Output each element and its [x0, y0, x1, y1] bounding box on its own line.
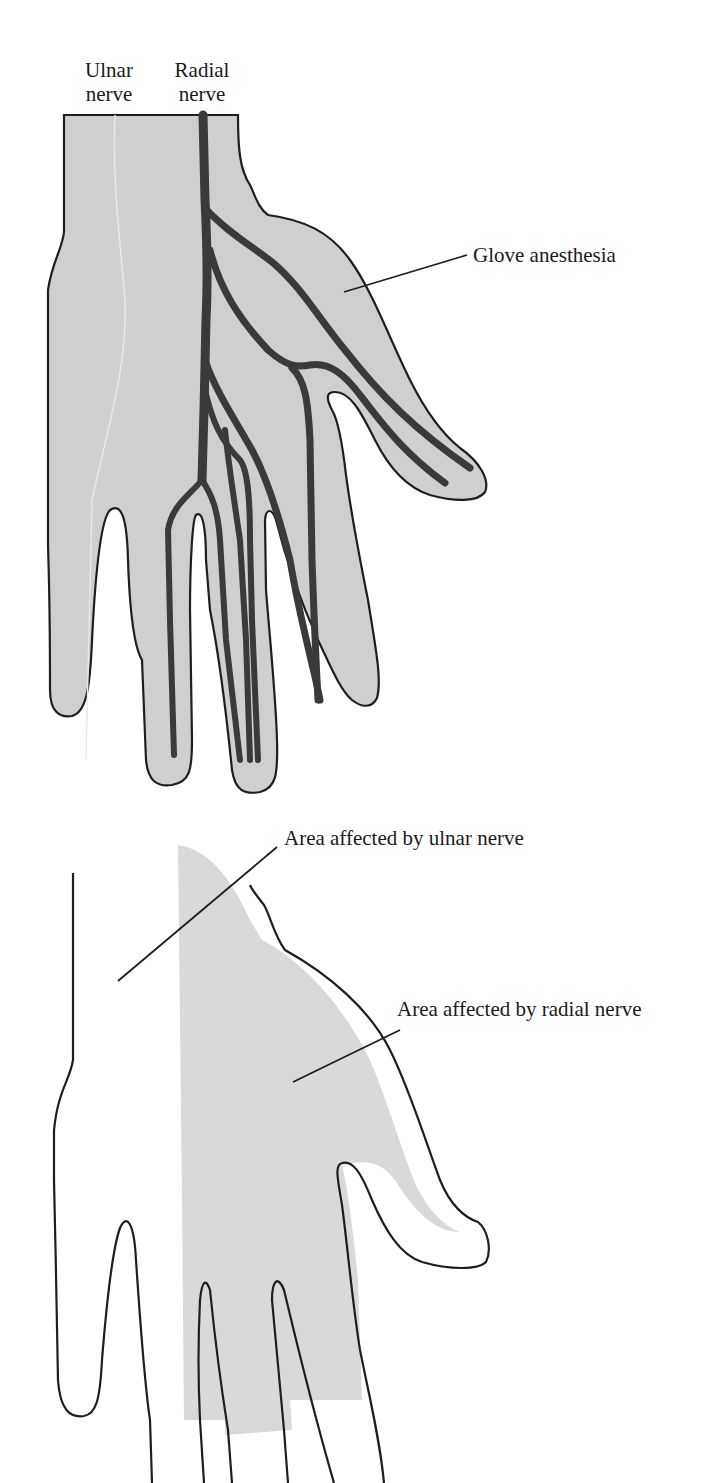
ulnar-area-label: Area affected by ulnar nerve	[284, 826, 524, 850]
ulnar-nerve-label: Ulnar nerve	[78, 58, 140, 106]
nerve-anesthesia-figure: Ulnar nerve Radial nerve Glove anesthesi…	[0, 0, 705, 1483]
radial-area-label: Area affected by radial nerve	[397, 997, 641, 1021]
radial-nerve-label-line1: Radial	[168, 58, 236, 82]
radial-area-fill	[178, 845, 460, 1435]
glove-anesthesia-label: Glove anesthesia	[473, 243, 616, 267]
radial-nerve-label: Radial nerve	[168, 58, 236, 106]
ulnar-nerve-label-line2: nerve	[78, 82, 140, 106]
glove-leader-line	[344, 255, 467, 292]
top-hand	[48, 115, 486, 793]
radial-nerve-label-line2: nerve	[168, 82, 236, 106]
ulnar-nerve-label-line1: Ulnar	[78, 58, 140, 82]
figure-drawing	[0, 0, 705, 1483]
bottom-hand	[54, 845, 489, 1483]
top-hand-outline	[48, 115, 486, 793]
